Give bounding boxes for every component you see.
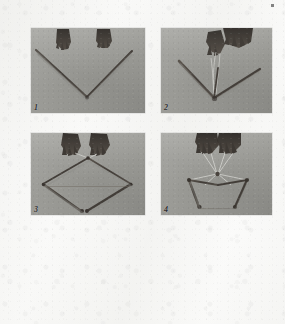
panel-number-2: 2 bbox=[164, 104, 168, 112]
scan-speck-artifact bbox=[271, 4, 274, 7]
panel-number-1: 1 bbox=[34, 104, 38, 112]
figure-panel-2: 2 bbox=[161, 28, 272, 113]
panel-number-4: 4 bbox=[164, 206, 168, 214]
figure-panel-4: 4 bbox=[161, 133, 272, 215]
photo-grain bbox=[31, 28, 145, 113]
figure-panel-1: 1 bbox=[31, 28, 145, 113]
panel-number-3: 3 bbox=[34, 206, 38, 214]
figure-photo-grid: 1 bbox=[31, 28, 272, 215]
photo-grain bbox=[31, 133, 145, 215]
photo-grain bbox=[161, 28, 272, 113]
scanned-page: 1 bbox=[0, 0, 285, 324]
figure-panel-3: 3 bbox=[31, 133, 145, 215]
photo-grain bbox=[161, 133, 272, 215]
